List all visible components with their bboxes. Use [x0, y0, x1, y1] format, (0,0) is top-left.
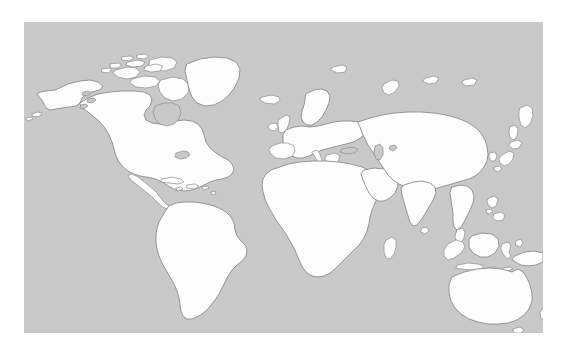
region-severnaya-zemlya [423, 76, 439, 84]
region-australia [449, 268, 532, 324]
region-novaya-zemlya [382, 80, 399, 95]
region-iberia [269, 143, 295, 159]
region-new-guinea [512, 251, 543, 266]
region-kamchatka [519, 105, 533, 128]
region-lesser-antilles [211, 191, 216, 195]
region-philippines-small-a [486, 209, 493, 214]
region-arctic-island-banks [113, 67, 140, 79]
region-borneo [469, 233, 499, 257]
region-india [401, 181, 436, 226]
region-halmahera [516, 239, 523, 247]
region-arctic-island-small-d [122, 56, 134, 61]
region-korea [489, 152, 497, 161]
region-caspian-sea [374, 144, 383, 160]
region-arctic-island-victoria [130, 76, 160, 88]
region-arctic-island-small-c [137, 54, 149, 59]
region-sumatra [444, 240, 465, 260]
region-aleutians-a [32, 112, 42, 117]
region-black-sea [340, 147, 358, 154]
region-arctic-island-small-a [110, 63, 122, 68]
world-map-svg [24, 22, 543, 333]
region-south-america [156, 202, 247, 319]
region-southeast-asia [450, 185, 474, 230]
region-puerto-rico [202, 186, 209, 190]
region-sakhalin [509, 125, 518, 140]
region-greenland [185, 57, 240, 106]
region-svalbard [331, 65, 347, 73]
region-ireland [268, 123, 278, 131]
region-sulawesi [501, 242, 511, 259]
region-japan-kyushu [494, 166, 502, 172]
map-ocean-panel [24, 22, 543, 333]
region-arctic-island-baffin [158, 77, 189, 101]
region-arctic-island-small-b [102, 68, 112, 73]
region-japan-honshu [499, 151, 514, 166]
region-great-bear-lake [82, 91, 91, 96]
region-arctic-island-devon [144, 64, 163, 72]
world-map-figure [0, 0, 569, 354]
region-new-zealand-south [540, 306, 543, 321]
region-sri-lanka [421, 227, 429, 234]
region-philippines-luzon [487, 196, 498, 208]
region-tasmania [513, 327, 524, 333]
region-madagascar [384, 237, 396, 259]
region-iceland [260, 95, 280, 104]
region-new-siberian-islands [462, 78, 477, 86]
region-japan-hokkaido [509, 140, 522, 149]
region-aleutians-b [26, 117, 33, 121]
region-scandinavia [301, 89, 330, 125]
region-philippines-mindanao [493, 212, 505, 221]
